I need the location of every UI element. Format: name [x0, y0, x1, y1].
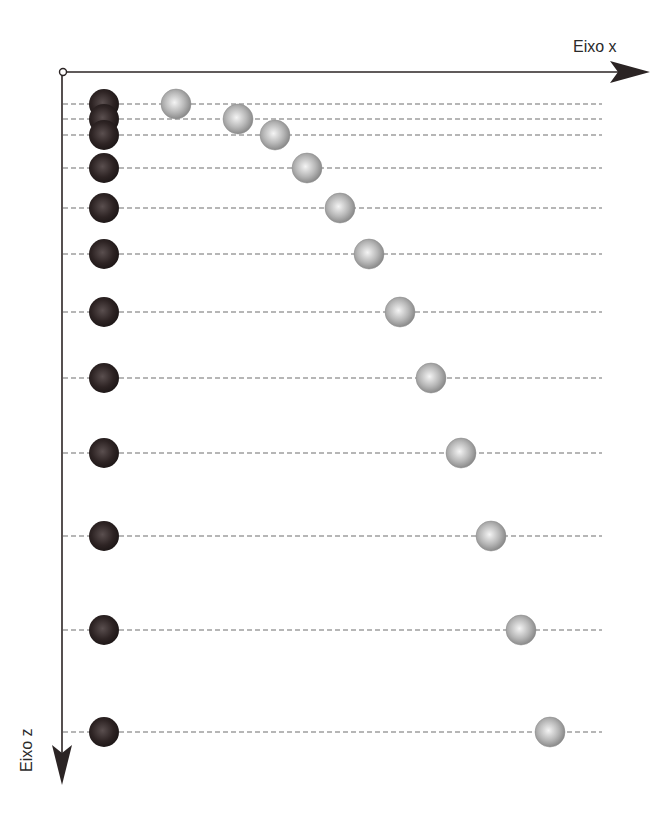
light-ball	[223, 104, 253, 134]
dark-ball	[89, 297, 119, 327]
light-ball	[292, 153, 322, 183]
z-axis-label: Eixo z	[18, 728, 36, 772]
origin-marker-icon	[60, 69, 67, 76]
trajectory-diagram	[0, 0, 663, 822]
dark-ball	[89, 438, 119, 468]
axes	[52, 61, 650, 785]
light-ball	[506, 615, 536, 645]
light-balls	[161, 89, 565, 747]
light-ball	[535, 717, 565, 747]
dark-ball	[89, 153, 119, 183]
light-ball	[476, 521, 506, 551]
light-ball	[385, 297, 415, 327]
light-ball	[161, 89, 191, 119]
dark-ball	[89, 363, 119, 393]
light-ball	[354, 239, 384, 269]
dark-ball	[89, 615, 119, 645]
light-ball	[446, 438, 476, 468]
dark-ball	[89, 193, 119, 223]
dark-ball	[89, 239, 119, 269]
dark-ball	[89, 717, 119, 747]
dark-ball	[89, 521, 119, 551]
light-ball	[416, 363, 446, 393]
light-ball	[325, 193, 355, 223]
dark-balls	[89, 89, 119, 747]
x-axis-label: Eixo x	[573, 38, 617, 56]
light-ball	[260, 120, 290, 150]
dark-ball	[89, 120, 119, 150]
